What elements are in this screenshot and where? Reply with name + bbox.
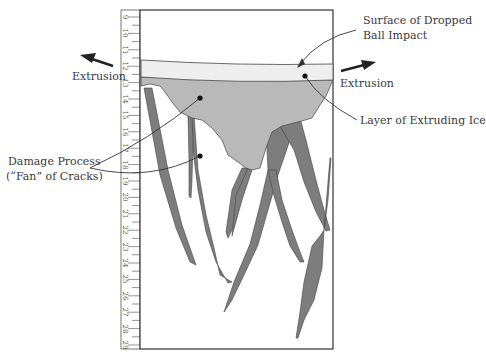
ruler-label: 11 [121, 43, 129, 57]
ruler-label: 16 [121, 125, 129, 139]
ruler-label: 13 [121, 76, 129, 90]
arrow-right-icon [341, 60, 376, 71]
ruler-label: 23 [121, 240, 129, 254]
label-extrusion-left: Extrusion [72, 70, 126, 83]
ruler-label: 19 [121, 174, 129, 188]
marker-dot [197, 153, 202, 158]
ruler-label: 26 [121, 289, 129, 303]
ruler-label: 25 [121, 272, 129, 286]
ruler-label: 29 [121, 338, 129, 352]
ruler-label: 9 [121, 10, 129, 24]
ruler-label: 10 [121, 26, 129, 40]
label-layer: Layer of Extruding Ice [360, 114, 486, 127]
label-damage-line1: Damage Process [8, 155, 101, 168]
ruler-label: 28 [121, 322, 129, 336]
ruler-label: 15 [121, 108, 129, 122]
ruler-label: 24 [121, 256, 129, 270]
arrow-left-icon [80, 53, 113, 66]
marker-dot [197, 95, 202, 100]
ruler-label: 14 [121, 92, 129, 106]
label-surface-line2: Ball Impact [363, 29, 427, 42]
ruler-label: 27 [121, 305, 129, 319]
label-damage-line2: (“Fan” of Cracks) [6, 170, 103, 183]
ruler-label: 18 [121, 158, 129, 172]
marker-dot [302, 73, 307, 78]
ruler-label: 17 [121, 141, 129, 155]
ruler-label: 20 [121, 190, 129, 204]
ruler-label: 21 [121, 207, 129, 221]
label-extrusion-right: Extrusion [340, 77, 394, 90]
label-surface-line1: Surface of Dropped [363, 14, 472, 27]
ruler-label: 12 [121, 59, 129, 73]
ruler-label: 22 [121, 223, 129, 237]
